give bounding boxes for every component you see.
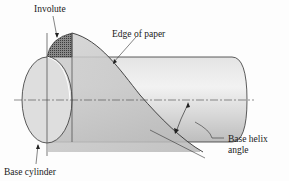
base-helix-angle-label-line2: angle [228, 145, 249, 155]
involute-label: Involute [34, 4, 66, 14]
involute-region [47, 33, 72, 57]
base-helix-angle-label-line1: Base helix [228, 134, 268, 144]
diagram-canvas: Involute Edge of paper Base helix angle … [0, 0, 289, 181]
base-cylinder-label: Base cylinder [4, 167, 56, 177]
edge-of-paper-label: Edge of paper [112, 29, 165, 39]
